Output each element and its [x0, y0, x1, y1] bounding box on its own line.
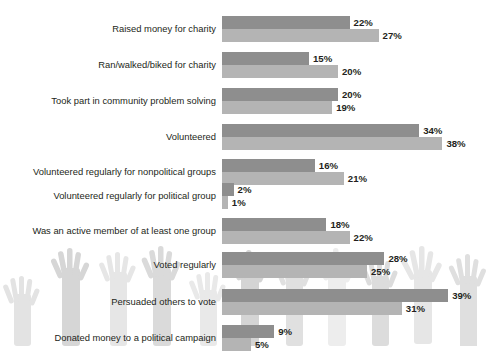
- value-label: 25%: [371, 265, 390, 278]
- value-label: 9%: [278, 325, 292, 338]
- category-label: Was an active member of at least one gro…: [0, 225, 216, 236]
- value-label: 20%: [342, 88, 361, 101]
- bar-women: [222, 302, 402, 315]
- bar-men: [222, 159, 315, 172]
- bar-women: [222, 338, 251, 351]
- bar-women: [222, 265, 367, 278]
- bar-women: [222, 65, 338, 78]
- bar-women: [222, 137, 442, 150]
- bar-women: [222, 101, 332, 114]
- category-label: Volunteered: [0, 131, 216, 142]
- bar-men: [222, 252, 384, 265]
- value-label: 19%: [336, 101, 355, 114]
- bar-men: [222, 218, 326, 231]
- value-label: 1%: [232, 196, 246, 209]
- category-label: Donated money to a political campaign: [0, 332, 216, 343]
- value-label: 21%: [348, 172, 367, 185]
- plot-area: Raised money for charity22%27%Ran/walked…: [0, 0, 499, 355]
- bar-chart: Raised money for charity22%27%Ran/walked…: [0, 0, 499, 355]
- bar-men: [222, 52, 309, 65]
- category-label: Ran/walked/biked for charity: [0, 59, 216, 70]
- value-label: 27%: [383, 29, 402, 42]
- value-label: 22%: [354, 231, 373, 244]
- value-label: 18%: [330, 218, 349, 231]
- bar-women: [222, 29, 379, 42]
- value-label: 15%: [313, 52, 332, 65]
- value-label: 2%: [238, 183, 252, 196]
- value-label: 20%: [342, 65, 361, 78]
- bar-men: [222, 183, 234, 196]
- category-label: Persuaded others to vote: [0, 296, 216, 307]
- category-label: Raised money for charity: [0, 23, 216, 34]
- value-label: 39%: [452, 289, 471, 302]
- value-label: 16%: [319, 159, 338, 172]
- bar-men: [222, 289, 448, 302]
- category-label: Volunteered regularly for political grou…: [0, 190, 216, 201]
- bar-men: [222, 325, 274, 338]
- value-label: 31%: [406, 302, 425, 315]
- category-label: Voted regularly: [0, 259, 216, 270]
- bar-women: [222, 231, 350, 244]
- value-label: 38%: [446, 137, 465, 150]
- value-label: 5%: [255, 338, 269, 351]
- value-label: 34%: [423, 124, 442, 137]
- bar-men: [222, 124, 419, 137]
- bar-women: [222, 196, 228, 209]
- bar-men: [222, 88, 338, 101]
- category-label: Volunteered regularly for nonpolitical g…: [0, 166, 216, 177]
- value-label: 28%: [388, 252, 407, 265]
- value-label: 22%: [354, 16, 373, 29]
- category-label: Took part in community problem solving: [0, 95, 216, 106]
- bar-men: [222, 16, 350, 29]
